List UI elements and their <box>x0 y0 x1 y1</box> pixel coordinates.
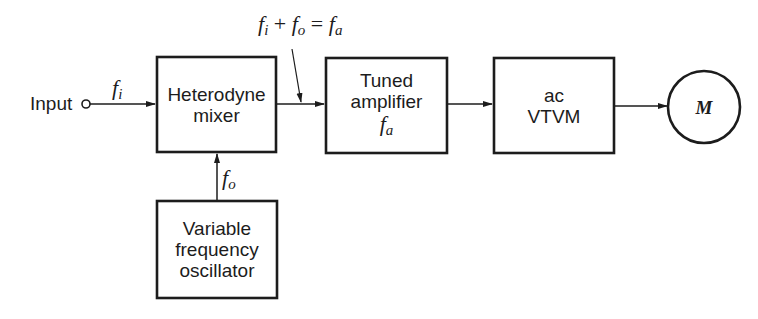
amplifier-signal-label: fa <box>380 112 394 142</box>
diagram-lines <box>0 0 758 319</box>
mixer-label: Heterodyne mixer <box>157 57 276 152</box>
oscillator-signal-label: fo <box>222 168 236 194</box>
tuned-amplifier-label: Tuned amplifier fa <box>326 58 447 153</box>
vtvm-label: ac VTVM <box>494 58 614 153</box>
block-diagram: Input fi fi + fo = fa fo Heterodyne mixe… <box>0 0 758 319</box>
input-signal-label: fi <box>112 78 122 104</box>
input-label: Input <box>30 94 72 114</box>
equation-leader-arrow <box>292 49 301 102</box>
oscillator-label: Variable frequency oscillator <box>157 201 277 298</box>
input-terminal <box>82 100 90 108</box>
meter-label: M <box>668 71 740 143</box>
mixer-output-equation: fi + fo = fa <box>258 14 342 40</box>
